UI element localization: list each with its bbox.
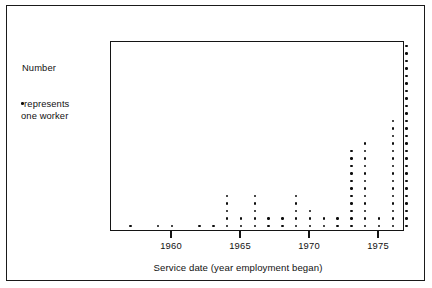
data-point-dot: [254, 202, 256, 204]
data-point-dot: [364, 180, 366, 182]
data-point-dot: [226, 210, 228, 212]
data-point-dot: [350, 217, 352, 219]
data-point-dot: [405, 105, 407, 107]
data-point-dot: [198, 225, 200, 227]
data-point-dot: [350, 195, 352, 197]
data-point-dot: [392, 202, 394, 204]
data-point-dot: [405, 135, 407, 137]
x-axis-title-text: Service date (year employment began): [154, 262, 323, 273]
data-point-dot: [392, 195, 394, 197]
x-axis-tick-label: 1960: [160, 240, 182, 251]
data-point-dot: [364, 165, 366, 167]
data-point-dot: [392, 210, 394, 212]
data-point-dot: [364, 187, 366, 189]
data-point-dot: [405, 97, 407, 99]
x-axis-tick-label: 1975: [367, 240, 389, 251]
data-point-dot: [405, 150, 407, 152]
x-axis-tick-label: 1970: [298, 240, 320, 251]
data-point-dot: [157, 225, 159, 227]
data-point-dot: [364, 210, 366, 212]
data-point-dot: [226, 225, 228, 227]
data-point-dot: [254, 225, 256, 227]
data-point-dot: [254, 210, 256, 212]
data-point-dot: [405, 180, 407, 182]
data-point-dot: [405, 195, 407, 197]
data-point-dot: [392, 172, 394, 174]
data-point-dot: [405, 142, 407, 144]
data-point-dot: [378, 225, 380, 227]
data-point-dot: [405, 60, 407, 62]
data-point-dot: [405, 172, 407, 174]
data-point-dot: [392, 142, 394, 144]
data-point-dot: [405, 165, 407, 167]
data-point-dot: [364, 202, 366, 204]
data-point-dot: [392, 217, 394, 219]
x-axis-tick: [308, 231, 309, 238]
data-point-dot: [350, 165, 352, 167]
data-point-dot: [405, 67, 407, 69]
data-point-dot: [267, 225, 269, 227]
data-point-dot: [171, 225, 173, 227]
data-point-dot: [350, 150, 352, 152]
data-point-dot: [392, 135, 394, 137]
data-point-dot: [405, 120, 407, 122]
data-point-dot: [240, 217, 242, 219]
data-point-dot: [392, 150, 394, 152]
data-point-dot: [323, 225, 325, 227]
data-point-dot: [295, 202, 297, 204]
data-point-dot: [364, 217, 366, 219]
data-point-dot: [254, 195, 256, 197]
data-point-dot: [405, 52, 407, 54]
data-point-dot: [309, 225, 311, 227]
legend-line2: one worker: [21, 110, 68, 121]
data-point-dot: [392, 157, 394, 159]
data-point-dot: [226, 202, 228, 204]
data-point-dot: [364, 142, 366, 144]
dot-plot-figure: Number represents one worker 19601965197…: [0, 0, 432, 288]
data-point-dot: [405, 202, 407, 204]
data-point-dot: [309, 217, 311, 219]
data-point-dot: [364, 172, 366, 174]
data-point-dot: [281, 217, 283, 219]
data-point-dot: [350, 157, 352, 159]
data-point-dot: [405, 75, 407, 77]
data-point-dot: [364, 225, 366, 227]
data-point-dot: [295, 217, 297, 219]
data-point-dot: [350, 225, 352, 227]
data-point-dot: [336, 217, 338, 219]
x-axis-tick-label: 1965: [229, 240, 251, 251]
data-point-dot: [405, 90, 407, 92]
data-point-dot: [267, 217, 269, 219]
data-point-dot: [392, 180, 394, 182]
data-point-dot: [295, 225, 297, 227]
x-axis-tick: [239, 231, 240, 238]
data-point-dot: [309, 210, 311, 212]
data-point-dot: [405, 217, 407, 219]
plot-area: [111, 42, 403, 230]
data-point-dot: [392, 127, 394, 129]
data-point-dot: [295, 195, 297, 197]
data-point-dot: [405, 210, 407, 212]
legend-note: represents one worker: [21, 98, 69, 121]
data-point-dot: [336, 225, 338, 227]
data-point-dot: [405, 157, 407, 159]
data-point-dot: [350, 202, 352, 204]
data-point-dot: [405, 45, 407, 47]
data-point-dot: [392, 225, 394, 227]
data-point-dot: [350, 180, 352, 182]
data-point-dot: [350, 172, 352, 174]
data-point-dot: [350, 210, 352, 212]
data-point-dot: [405, 127, 407, 129]
data-point-dot: [226, 217, 228, 219]
y-axis-note-label: Number: [22, 62, 56, 73]
data-point-dot: [226, 195, 228, 197]
data-point-dot: [364, 150, 366, 152]
data-point-dot: [405, 112, 407, 114]
x-axis-tick: [170, 231, 171, 238]
data-point-dot: [405, 82, 407, 84]
data-point-dot: [240, 225, 242, 227]
data-point-dot: [281, 225, 283, 227]
data-point-dot: [364, 157, 366, 159]
data-point-dot: [295, 210, 297, 212]
data-point-dot: [212, 225, 214, 227]
